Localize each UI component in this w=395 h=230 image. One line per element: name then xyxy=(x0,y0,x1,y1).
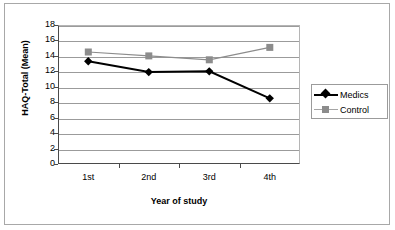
y-tick-label: 14 xyxy=(0,51,55,60)
data-point-square xyxy=(85,49,92,56)
y-tick-label: 10 xyxy=(0,82,55,91)
y-tick-label: 12 xyxy=(0,66,55,75)
square-marker-icon xyxy=(322,106,329,113)
legend-key-control xyxy=(312,103,340,116)
data-point-square xyxy=(266,44,273,51)
data-point-diamond xyxy=(205,67,213,75)
x-tick-label: 4th xyxy=(240,172,300,182)
x-tick-mark xyxy=(240,164,241,168)
chart-figure: HAQ-Total (Mean) 181614121086420 1st2nd3… xyxy=(0,0,395,230)
y-tick-label: 4 xyxy=(0,128,55,137)
x-tick-label: 2nd xyxy=(119,172,179,182)
y-tick-label: 6 xyxy=(0,113,55,122)
data-point-diamond xyxy=(84,57,92,65)
series-line-control xyxy=(88,47,269,59)
legend-label-medics: Medics xyxy=(340,90,369,100)
y-tick-label: 16 xyxy=(0,35,55,44)
y-axis-title: HAQ-Total (Mean) xyxy=(20,8,30,148)
series-line-medics xyxy=(88,61,269,98)
x-axis-title: Year of study xyxy=(58,196,300,206)
y-tick-label: 18 xyxy=(0,20,55,29)
y-tick-label: 8 xyxy=(0,97,55,106)
x-tick-mark xyxy=(179,164,180,168)
series-layer xyxy=(58,25,300,164)
x-tick-label: 1st xyxy=(58,172,118,182)
x-tick-mark xyxy=(119,164,120,168)
legend-label-control: Control xyxy=(340,105,369,115)
y-tick-label: 0 xyxy=(0,159,55,168)
data-point-square xyxy=(145,52,152,59)
x-tick-label: 3rd xyxy=(179,172,239,182)
data-point-diamond xyxy=(266,94,274,102)
data-point-diamond xyxy=(145,68,153,76)
legend-item-control[interactable]: Control xyxy=(312,102,387,117)
data-point-square xyxy=(206,56,213,63)
legend-key-medics xyxy=(312,88,340,101)
chart-legend: Medics Control xyxy=(311,84,388,119)
diamond-marker-icon xyxy=(321,89,331,99)
y-tick-label: 2 xyxy=(0,144,55,153)
y-tick-mark xyxy=(54,164,58,165)
legend-item-medics[interactable]: Medics xyxy=(312,87,387,102)
